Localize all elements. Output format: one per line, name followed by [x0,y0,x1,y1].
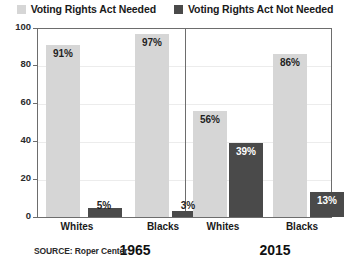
group-label-2015-blacks: Blacks [272,222,332,232]
bar-value-label-1965-whites-not-needed: 5% [87,201,121,211]
y-tick-label: 0 [26,211,31,221]
y-tick-20: 20 [0,179,37,180]
bar-2015-whites-not-needed[interactable]: 39% [229,143,263,217]
legend-label-needed: Voting Rights Act Needed [31,4,156,15]
group-label-1965-blacks: Blacks [133,222,193,232]
bar-2015-blacks-needed[interactable]: 86% [273,54,307,217]
y-tick-40: 40 [0,141,37,142]
y-tick-80: 80 [0,65,37,66]
panel-divider [185,29,186,217]
legend-item-needed: Voting Rights Act Needed [17,4,156,15]
bar-value-label: 91% [46,49,80,59]
bar-value-label: 97% [135,38,169,48]
bar-2015-blacks-not-needed[interactable]: 13% [310,192,344,217]
legend-item-not-needed: Voting Rights Act Not Needed [174,4,333,15]
chart-legend: Voting Rights Act Needed Voting Rights A… [0,1,350,17]
bar-value-label: 13% [310,196,344,206]
legend-swatch-icon [174,5,183,14]
y-tick-label: 40 [20,135,31,145]
bar-value-label: 86% [273,58,307,68]
group-label-1965-whites: Whites [47,222,107,232]
group-label-2015-whites: Whites [193,222,253,232]
bar-value-label-1965-blacks-not-needed: 3% [171,201,205,211]
y-tick-label: 20 [20,173,31,183]
y-axis: 0 20 40 60 80 100 [0,28,37,218]
source-note: SOURCE: Roper Center [34,247,127,256]
plot-area: 91% 97% 56% 39% 86% 13% [37,28,332,218]
y-tick-100: 100 [0,28,37,29]
bar-1965-whites-needed[interactable]: 91% [46,45,80,217]
y-tick-label: 60 [20,97,31,107]
y-tick-label: 80 [20,59,31,69]
panel-year-2015: 2015 [245,243,305,257]
y-tick-0: 0 [0,217,37,218]
legend-swatch-icon [17,5,26,14]
bar-1965-blacks-needed[interactable]: 97% [135,34,169,217]
y-tick-60: 60 [0,103,37,104]
bar-value-label: 56% [193,115,227,125]
legend-label-not-needed: Voting Rights Act Not Needed [188,4,333,15]
y-tick-label: 100 [15,22,31,32]
bar-value-label: 39% [229,147,263,157]
